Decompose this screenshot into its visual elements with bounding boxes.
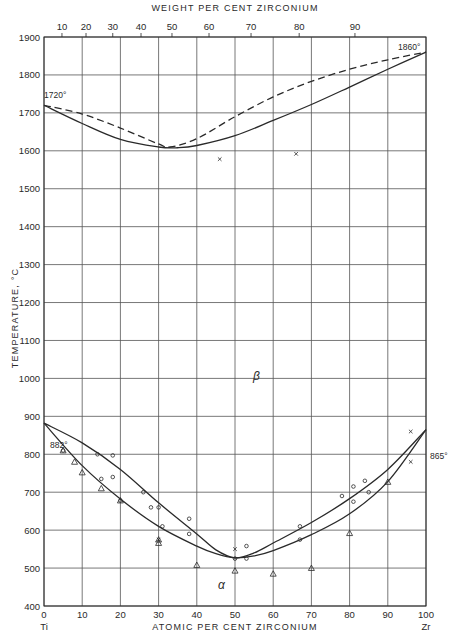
x-axis-title: ATOMIC PER CENT ZIRCONIUM <box>152 622 318 632</box>
x-tick-label: 100 <box>418 609 434 620</box>
y-tick-label: 1700 <box>19 107 40 118</box>
y-tick-label: 800 <box>24 449 40 460</box>
x-tick-label: 70 <box>306 609 317 620</box>
annotation-882: 882° <box>50 440 68 450</box>
y-tick-label: 1400 <box>19 221 40 232</box>
x-tick-label: 40 <box>192 609 203 620</box>
alpha-phase-label: α <box>218 578 226 592</box>
x-tick-label: 60 <box>268 609 279 620</box>
beta-phase-label: β <box>252 369 260 383</box>
circle-marker <box>187 532 191 536</box>
top-axis-title: WEIGHT PER CENT ZIRCONIUM <box>151 3 318 13</box>
top-tick-label: 80 <box>294 21 305 32</box>
left-element-label: Ti <box>40 621 48 632</box>
y-tick-label: 400 <box>24 601 40 612</box>
top-tick-label: 30 <box>107 21 118 32</box>
x-tick-label: 80 <box>344 609 355 620</box>
x-tick-label: 30 <box>153 609 164 620</box>
circle-marker <box>149 506 153 510</box>
cross-marker <box>218 157 222 161</box>
annotation-1860: 1860° <box>398 42 420 52</box>
y-tick-label: 1800 <box>19 69 40 80</box>
circle-marker <box>352 485 356 489</box>
x-tick-label: 0 <box>41 609 46 620</box>
x-tick-label: 50 <box>230 609 241 620</box>
y-tick-label: 1900 <box>19 32 40 43</box>
y-tick-label: 500 <box>24 563 40 574</box>
y-axis-ticks: 4005006007008009001000110012001300140015… <box>19 32 40 612</box>
top-axis-ticks: 102030405060708090 <box>57 21 361 37</box>
y-tick-label: 600 <box>24 525 40 536</box>
circle-marker <box>298 525 302 529</box>
y-tick-label: 1200 <box>19 297 40 308</box>
cross-marker <box>409 460 413 464</box>
annotation-1720: 1720° <box>44 90 66 100</box>
x-tick-label: 90 <box>383 609 394 620</box>
circle-marker <box>363 479 367 483</box>
top-tick-label: 70 <box>246 21 257 32</box>
y-tick-label: 1000 <box>19 373 40 384</box>
annotation-865: 865° <box>430 451 448 461</box>
triangle-marker <box>98 485 104 490</box>
top-tick-label: 40 <box>136 21 147 32</box>
top-tick-label: 10 <box>57 21 68 32</box>
circle-marker <box>187 517 191 521</box>
y-tick-label: 700 <box>24 487 40 498</box>
y-tick-label: 900 <box>24 411 40 422</box>
data-markers <box>60 152 412 576</box>
circle-marker <box>111 475 115 479</box>
x-tick-label: 10 <box>77 609 88 620</box>
top-tick-label: 60 <box>204 21 215 32</box>
top-tick-label: 50 <box>167 21 178 32</box>
circle-marker <box>352 500 356 504</box>
y-tick-label: 1100 <box>20 335 40 346</box>
top-tick-label: 90 <box>350 21 361 32</box>
top-tick-label: 20 <box>81 21 92 32</box>
circle-marker <box>161 525 165 529</box>
y-tick-label: 1500 <box>19 183 40 194</box>
circle-marker <box>245 544 249 548</box>
y-tick-label: 1300 <box>19 259 40 270</box>
circle-marker <box>340 494 344 498</box>
phase-diagram: 4005006007008009001000110012001300140015… <box>0 0 454 641</box>
circle-marker <box>100 477 104 481</box>
right-element-label: Zr <box>422 621 431 632</box>
cross-marker <box>409 430 413 434</box>
x-axis-ticks: 0102030405060708090100 <box>41 609 434 620</box>
cross-marker <box>294 152 298 156</box>
x-tick-label: 20 <box>115 609 126 620</box>
grid-lines <box>44 37 426 606</box>
y-axis-title: TEMPERATURE, °C <box>10 268 20 368</box>
y-tick-label: 1600 <box>19 145 40 156</box>
